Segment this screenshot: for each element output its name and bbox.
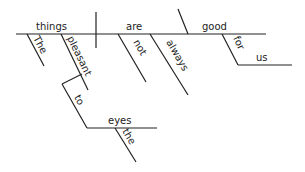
word-verb: are: [126, 21, 142, 32]
prep-connector: [62, 74, 82, 84]
prep-line-to: [62, 84, 87, 128]
word-mod-obj: eyes: [108, 115, 131, 126]
word-comp-prep: for: [231, 34, 247, 52]
complement-divider: [178, 9, 188, 34]
word-subject: things: [36, 21, 67, 32]
word-subj-mod-1: The: [31, 33, 50, 55]
word-subj-mod-2: pleasant: [65, 34, 94, 78]
sentence-diagram: things are good The pleasant to eyes the…: [0, 0, 305, 172]
word-verb-mod-2: always: [164, 38, 191, 73]
word-verb-mod-1: not: [131, 38, 149, 58]
word-mod-obj-mod: the: [120, 127, 138, 147]
word-complement: good: [202, 21, 227, 32]
word-comp-obj: us: [256, 52, 268, 63]
